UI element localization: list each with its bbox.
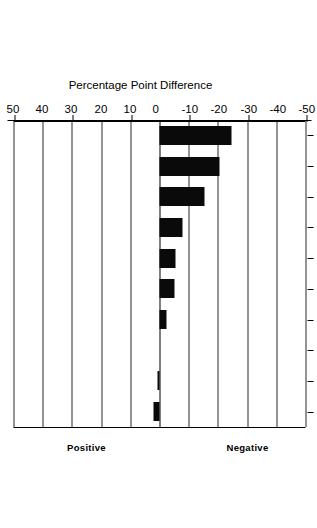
category-tick [307, 320, 313, 321]
value-tick-label--20: -20 [210, 103, 227, 115]
plot-area [13, 121, 305, 428]
category-tick [307, 412, 313, 413]
value-tick-label--10: -10 [181, 103, 198, 115]
bar [159, 157, 219, 176]
rotated-chart-frame: -50-40-30-20-1001020304050 Ethical Corp … [0, 0, 317, 528]
category-tick [307, 350, 313, 351]
bar [159, 218, 182, 237]
value-axis-title: Percentage Point Difference [68, 79, 212, 91]
category-tick [307, 197, 313, 198]
category-tick [307, 166, 313, 167]
value-tick-label-0: 0 [152, 103, 158, 115]
annotation-negative: Negative [226, 442, 268, 453]
bar [159, 187, 204, 206]
category-tick [307, 135, 313, 136]
value-tick-label-10: 10 [123, 103, 136, 115]
value-tick-label-40: 40 [35, 103, 48, 115]
value-tick-label--30: -30 [240, 103, 257, 115]
bar [153, 402, 159, 421]
value-axis-spine [7, 120, 311, 121]
bar [159, 126, 231, 145]
category-tick [307, 289, 313, 290]
bar-series [13, 122, 305, 427]
category-tick [307, 227, 313, 228]
value-tick-label-30: 30 [64, 103, 77, 115]
bar [159, 310, 166, 329]
bar [159, 279, 174, 298]
bar [159, 249, 175, 268]
chart-figure: -50-40-30-20-1001020304050 Ethical Corp … [0, 0, 317, 528]
value-tick-label-50: 50 [6, 103, 19, 115]
value-tick-label--40: -40 [269, 103, 286, 115]
category-tick [307, 258, 313, 259]
value-tick-label--50: -50 [298, 103, 315, 115]
category-tick [307, 381, 313, 382]
value-tick-label-20: 20 [94, 103, 107, 115]
annotation-positive: Positive [67, 442, 106, 453]
bar [157, 371, 159, 390]
